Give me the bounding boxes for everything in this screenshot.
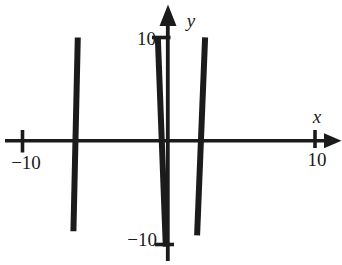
x-tick-label-positive: 10 (308, 149, 327, 170)
x-axis-label: x (312, 106, 322, 127)
steep-line-1 (158, 37, 166, 246)
steep-line-0 (73, 37, 77, 231)
graph-canvas: −10 10 10 −10 x y (0, 0, 342, 265)
y-tick-label-positive: 10 (137, 28, 156, 49)
y-axis-arrowhead (160, 5, 177, 27)
x-tick-label-negative: −10 (11, 152, 41, 173)
x-axis-arrowhead (324, 133, 342, 148)
steep-line-2 (197, 37, 205, 235)
graph-figure: −10 10 10 −10 x y (0, 0, 342, 265)
y-axis-label: y (185, 10, 196, 31)
y-tick-label-negative: −10 (127, 229, 157, 250)
